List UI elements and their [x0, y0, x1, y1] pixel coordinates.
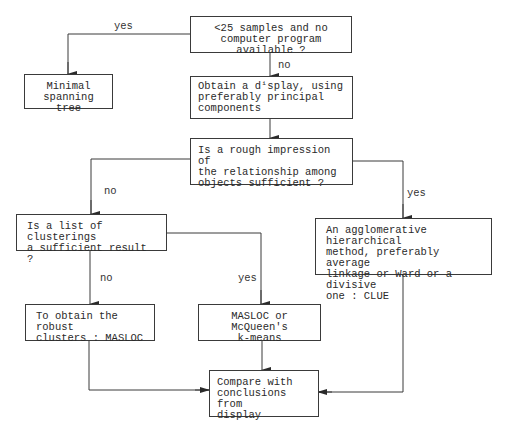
- label-samples-yes: yes: [114, 21, 133, 32]
- node-masloc-kmeans: MASLOC or McQueen's k-means: [198, 304, 321, 341]
- label-samples-no: no: [278, 60, 291, 71]
- edge-samples-yes: [68, 34, 190, 74]
- edge-rough-yes: [352, 161, 403, 218]
- edge-list-yes: [166, 233, 261, 304]
- node-rough-impression-question: Is a rough impression of the relationshi…: [190, 138, 353, 185]
- node-samples-question: <25 samples and no computer program avai…: [190, 16, 352, 53]
- node-minimal-spanning-tree: Minimal spanning tree: [24, 74, 113, 109]
- label-rough-yes: yes: [407, 188, 426, 199]
- node-list-clusterings-question: Is a list of clusterings a sufficient re…: [16, 214, 167, 251]
- node-agglomerative-method: An agglomerative hierarchical method, pr…: [315, 218, 492, 275]
- label-list-no: no: [100, 273, 113, 284]
- edge-robust-compare: [89, 340, 209, 390]
- node-obtain-display: Obtain a dⁱsplay, using preferably princ…: [190, 76, 353, 119]
- node-compare-conclusions: Compare with conclusions from display: [209, 370, 319, 417]
- label-list-yes: yes: [238, 273, 257, 284]
- label-rough-no: no: [104, 186, 117, 197]
- node-robust-clusters: To obtain the robust clusters : MASLOC: [25, 304, 155, 341]
